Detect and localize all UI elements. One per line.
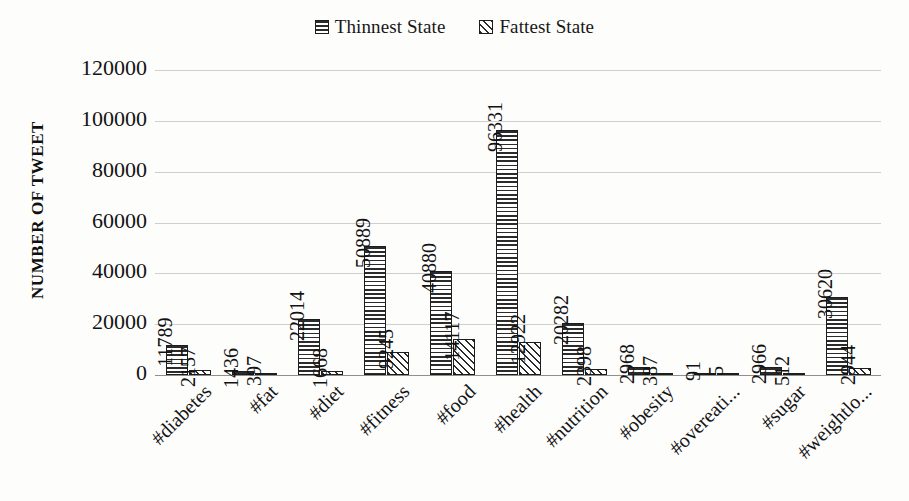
legend-swatch-icon [315,20,329,34]
bar-item[interactable]: 11789 [166,70,188,375]
bar-item[interactable]: 14117 [453,70,475,375]
x-tick-label: #sugar [756,380,810,434]
x-tick-label: #fat [244,380,282,418]
plot-area: 120000100000800006000040000200000 117892… [155,70,881,375]
bar-group: 306202944 [815,70,881,375]
bar-item[interactable]: 1436 [232,70,254,375]
bar-item[interactable]: 12922 [519,70,541,375]
bar-value-label: 40880 [418,243,441,293]
bar-item[interactable]: 2944 [849,70,871,375]
bar-value-label: 96331 [484,102,507,152]
y-tick-label: 0 [7,360,147,386]
bar-group: 915 [683,70,749,375]
x-tick-label: #food [431,380,480,429]
legend-item-2[interactable]: Fattest State [479,16,594,38]
bar-value-label: 30620 [814,269,837,319]
y-tick-label: 120000 [7,55,147,81]
x-tick-label: #fitness [354,380,414,440]
bar-item[interactable]: 5 [717,70,739,375]
bar-item[interactable]: 20282 [562,70,584,375]
bar-group: 9633112922 [485,70,551,375]
bar-value-label: 22014 [286,291,309,341]
y-tick-label: 80000 [7,157,147,183]
bar-item[interactable]: 2968 [628,70,650,375]
legend-swatch-icon [479,20,493,34]
bar-item[interactable]: 387 [651,70,673,375]
legend-item-1[interactable]: Thinnest State [315,16,446,38]
bar-value-label: 14117 [441,311,464,360]
bar-item[interactable]: 2157 [189,70,211,375]
x-tick-label: #overeati... [665,380,744,459]
bar-group: 220141668 [287,70,353,375]
x-tick-label: #diabetes [147,380,217,450]
bar-item[interactable]: 22014 [298,70,320,375]
bar-item[interactable]: 30620 [826,70,848,375]
bar-group: 117892157 [155,70,221,375]
bar-series-container: 1178921571436397220141668508899245408801… [155,70,881,375]
bar-value-label: 2966 [748,344,771,384]
bar-value-label: 12922 [507,314,530,364]
bar-value-label: 11789 [154,317,177,366]
bar-value-label: 2944 [837,345,860,385]
chart-legend: Thinnest StateFattest State [0,16,909,38]
legend-label: Thinnest State [335,16,446,38]
bar-group: 508899245 [353,70,419,375]
x-tick-label: #health [488,380,546,438]
legend-label: Fattest State [499,16,594,38]
y-tick-label: 100000 [7,106,147,132]
y-tick-label: 60000 [7,208,147,234]
bar-value-label: 2968 [616,344,639,384]
bar-item[interactable]: 2966 [760,70,782,375]
bar-group: 202822398 [551,70,617,375]
y-tick-label: 20000 [7,309,147,335]
bar-group: 2966512 [749,70,815,375]
x-tick-label: #diet [304,380,349,425]
bar-value-label: 20282 [550,295,573,345]
bar-group: 4088014117 [419,70,485,375]
bar-item[interactable]: 397 [255,70,277,375]
bar-item[interactable]: 2398 [585,70,607,375]
bar-item[interactable]: 512 [783,70,805,375]
bar-value-label: 9245 [375,329,398,369]
x-tick-label: #nutrition [540,380,612,452]
bar-group: 2968387 [617,70,683,375]
bar-item[interactable]: 9245 [387,70,409,375]
bar-value-label: 91 [682,361,705,381]
bar-value-label: 50889 [352,218,375,268]
y-tick-label: 40000 [7,258,147,284]
bar-value-label: 5 [705,366,728,376]
x-axis-labels: #diabetes#fat#diet#fitness#food#health#n… [155,380,881,500]
bar-item[interactable]: 1668 [321,70,343,375]
bar-item[interactable]: 91 [694,70,716,375]
bar-group: 1436397 [221,70,287,375]
x-tick-label: #obesity [614,380,678,444]
